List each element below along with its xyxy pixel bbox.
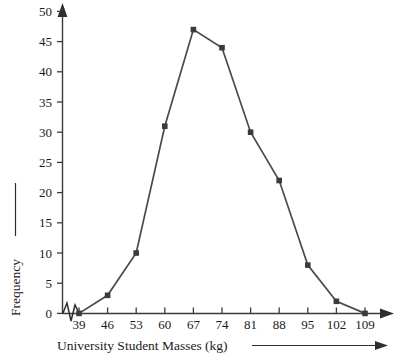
data-point: [76, 311, 82, 317]
y-tick-marks: [57, 11, 63, 313]
y-tick-label: 40: [39, 64, 52, 79]
data-point: [305, 262, 311, 268]
frequency-polygon-chart: 0 5 10 15 20 25 30 35 40 45 50: [0, 0, 397, 356]
x-tick-marks: [79, 308, 365, 314]
data-point: [162, 123, 168, 129]
x-axis-arrow-icon: [380, 309, 394, 319]
data-point: [248, 129, 254, 135]
y-tick-label: 50: [39, 4, 52, 19]
data-point: [133, 250, 139, 256]
data-point: [334, 299, 340, 305]
y-axis: [58, 3, 68, 314]
x-tick-label: 88: [273, 317, 286, 332]
x-axis-title: University Student Masses (kg): [57, 338, 228, 353]
x-tick-label: 39: [73, 317, 86, 332]
x-tick-label: 46: [101, 317, 115, 332]
x-axis-title-group: University Student Masses (kg): [57, 338, 388, 353]
y-tick-label: 10: [39, 246, 52, 261]
x-axis-title-arrow-icon: [375, 341, 388, 350]
chart-canvas: 0 5 10 15 20 25 30 35 40 45 50: [0, 0, 397, 356]
y-axis-title: Frequency: [8, 259, 23, 316]
x-tick-label: 67: [187, 317, 201, 332]
x-tick-label: 95: [301, 317, 314, 332]
data-point-markers: [76, 27, 368, 316]
y-tick-label: 30: [39, 125, 52, 140]
x-tick-label: 102: [327, 317, 347, 332]
y-tick-label: 5: [46, 276, 53, 291]
y-tick-label: 20: [39, 185, 52, 200]
y-axis-arrow-icon: [58, 3, 68, 17]
data-point: [191, 27, 197, 33]
data-point: [276, 178, 282, 184]
y-axis-title-group: Frequency: [8, 183, 23, 316]
x-tick-label: 74: [216, 317, 230, 332]
y-tick-labels: 0 5 10 15 20 25 30 35 40 45 50: [39, 4, 52, 321]
y-tick-label: 15: [39, 215, 52, 230]
x-tick-label: 109: [355, 317, 375, 332]
y-tick-label: 0: [46, 306, 53, 321]
x-tick-labels: 39 46 53 60 67 74 81 88 95 102 109: [73, 317, 375, 332]
x-tick-label: 60: [158, 317, 171, 332]
y-tick-label: 35: [39, 95, 52, 110]
y-tick-label: 25: [39, 155, 52, 170]
x-tick-label: 53: [130, 317, 143, 332]
data-point: [362, 311, 368, 317]
data-point: [105, 293, 111, 299]
frequency-polygon-line: [79, 30, 365, 314]
data-point: [219, 45, 225, 51]
x-tick-label: 81: [244, 317, 257, 332]
y-tick-label: 45: [39, 34, 52, 49]
